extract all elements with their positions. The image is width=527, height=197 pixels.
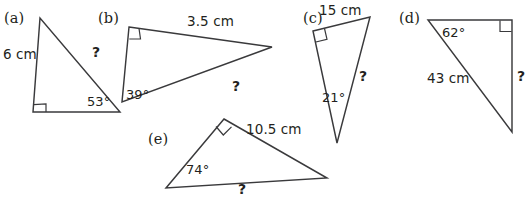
unknown-side-label-e: ?	[238, 182, 246, 196]
right-angle-marker-a	[34, 104, 46, 112]
unknown-side-label-b: ?	[232, 79, 240, 93]
side-length-label-d: 43 cm	[427, 72, 470, 86]
part-label-d: (d)	[399, 11, 420, 26]
angle-label-a: 53°	[87, 95, 110, 108]
side-length-label-a: 6 cm	[3, 48, 37, 62]
unknown-side-label-c: ?	[359, 69, 367, 83]
angle-label-c: 21°	[322, 91, 345, 104]
part-label-a: (a)	[4, 11, 24, 26]
side-length-label-b: 3.5 cm	[187, 15, 234, 29]
angle-label-d: 62°	[442, 26, 465, 39]
unknown-side-label-d: ?	[517, 69, 525, 83]
worksheet-figure-panel: (a) (b) (c) (d) (e) 6 cm 53° ? 3.5 cm 39…	[0, 0, 527, 197]
side-length-label-e: 10.5 cm	[246, 123, 302, 137]
angle-label-b: 39°	[126, 88, 149, 101]
right-angle-marker-d	[500, 20, 512, 31]
right-angle-marker-e	[216, 127, 232, 136]
part-label-b: (b)	[98, 11, 119, 26]
part-label-e: (e)	[148, 132, 168, 147]
unknown-side-label-a: ?	[92, 45, 100, 59]
angle-label-e: 74°	[186, 163, 209, 176]
side-length-label-c: 15 cm	[319, 4, 362, 18]
right-angle-marker-b	[129, 28, 140, 39]
